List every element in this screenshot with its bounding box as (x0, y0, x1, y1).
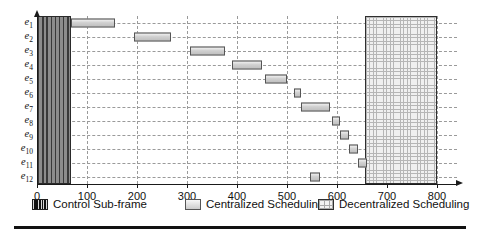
y-axis-label-e7: e7 (25, 100, 33, 114)
plot-area: e1e2e3e4e5e6e7e8e9e10e11e12 010020030040… (37, 16, 457, 184)
decentralized-scheduling-block (365, 16, 438, 184)
centralized-bar-e5 (265, 75, 288, 84)
centralized-bar-e8 (332, 117, 340, 126)
y-axis-arrow-icon (34, 10, 40, 17)
centralized-bar-e4 (232, 61, 262, 70)
y-axis-label-e5: e5 (25, 72, 33, 86)
y-axis-label-e4: e4 (25, 58, 33, 72)
y-axis-line (37, 16, 38, 184)
legend-label-decentralized-scheduling: Decentralized Scheduling (339, 198, 469, 210)
centralized-bar-e10 (349, 145, 358, 154)
y-axis-label-e6: e6 (25, 86, 33, 100)
x-axis-tick-mark (237, 184, 238, 188)
x-axis-tick-mark (187, 184, 188, 188)
grid-line-vertical (187, 16, 188, 184)
y-axis-label-e12: e12 (21, 170, 33, 184)
y-axis-label-e3: e3 (25, 44, 33, 58)
centralized-bar-e1 (71, 19, 115, 28)
control-subframe-block (37, 16, 71, 184)
x-axis-tick-mark (37, 184, 38, 188)
x-axis-tick-mark (87, 184, 88, 188)
x-axis-line (37, 184, 457, 185)
x-axis-tick-mark (137, 184, 138, 188)
legend-item-centralized-scheduling: Centralized Scheduling (185, 198, 324, 210)
legend-item-control-subframe: Control Sub-frame (32, 198, 147, 210)
x-axis-tick-mark (387, 184, 388, 188)
y-axis-label-e8: e8 (25, 114, 33, 128)
scheduling-gantt-chart: e1e2e3e4e5e6e7e8e9e10e11e12 010020030040… (0, 0, 477, 237)
centralized-scheduling-swatch-icon (185, 199, 201, 210)
y-axis-label-e10: e10 (21, 142, 33, 156)
control-subframe-swatch-icon (32, 199, 48, 210)
y-axis-label-e1: e1 (25, 16, 33, 30)
centralized-bar-e9 (340, 131, 349, 140)
plot-frame: e1e2e3e4e5e6e7e8e9e10e11e12 010020030040… (37, 16, 457, 184)
grid-line-vertical (237, 16, 238, 184)
x-axis-tick-mark (287, 184, 288, 188)
grid-line-vertical (437, 16, 438, 184)
centralized-bar-e11 (358, 159, 368, 168)
x-axis-tick-mark (437, 184, 438, 188)
legend-label-centralized-scheduling: Centralized Scheduling (206, 198, 324, 210)
y-axis-label-e11: e11 (21, 156, 33, 170)
centralized-bar-e2 (134, 33, 172, 42)
legend-label-control-subframe: Control Sub-frame (53, 198, 147, 210)
grid-line-vertical (287, 16, 288, 184)
centralized-bar-e7 (301, 103, 330, 112)
chart-legend: Control Sub-frame Centralized Scheduling… (0, 198, 477, 218)
legend-item-decentralized-scheduling: Decentralized Scheduling (318, 198, 469, 210)
grid-line-vertical (337, 16, 338, 184)
x-axis-tick-mark (337, 184, 338, 188)
y-axis-label-e2: e2 (25, 30, 33, 44)
grid-line-vertical (87, 16, 88, 184)
y-axis-label-e9: e9 (25, 128, 33, 142)
centralized-bar-e6 (294, 89, 302, 98)
bottom-divider-rule (14, 226, 466, 229)
decentralized-scheduling-swatch-icon (318, 199, 334, 210)
centralized-bar-e12 (310, 173, 320, 182)
centralized-bar-e3 (190, 47, 225, 56)
x-axis-arrow-icon (456, 180, 463, 186)
